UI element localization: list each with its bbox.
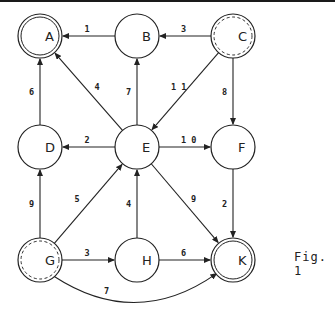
edge-d-a: 6 [29,59,40,125]
edge-weight-label: 3 [181,24,186,34]
node-k[interactable]: K [211,238,255,282]
edge-weight-label: 9 [29,199,34,209]
edge-weight-label: 1 1 [171,82,186,92]
edge-weight-label: 4 [126,199,131,209]
node-e[interactable]: E [115,125,159,169]
edge-weight-label: 8 [222,87,227,97]
edge-g-h: 3 [62,248,114,260]
edge-h-e: 4 [126,170,137,238]
nodes-layer: ABCDEFGHK [18,14,255,282]
node-label: H [142,253,152,268]
node-label: C [238,29,247,44]
node-label: E [142,140,150,155]
edge-weight-label: 2 [222,199,227,209]
node-b[interactable]: B [115,14,159,58]
edge-weight-label: 5 [75,194,80,204]
node-label: D [45,140,55,155]
edge-weight-label: 7 [104,286,109,296]
edge-weight-label: 1 0 [181,135,196,145]
edge-e-f: 1 0 [159,135,210,147]
edge-f-k: 2 [222,169,233,237]
node-label: A [45,29,54,44]
node-g[interactable]: G [18,238,62,282]
edge-c-f: 8 [222,58,233,124]
edge-c-b: 3 [160,24,211,36]
edge-weight-label: 9 [191,194,196,204]
node-f[interactable]: F [211,125,255,169]
node-d[interactable]: D [18,125,62,169]
edge-c-e: 1 1 [152,53,219,130]
figure-caption: Fig. 1 [294,250,335,278]
edge-weight-label: 7 [126,87,131,97]
node-label: K [238,253,247,268]
node-c[interactable]: C [211,14,255,58]
edge-weight-label: 1 [85,24,90,34]
edge-e-b: 7 [126,59,137,125]
edge-g-e: 5 [54,164,122,243]
node-label: B [142,29,151,44]
node-label: G [45,253,55,268]
edge-weight-label: 2 [85,135,90,145]
edge-g-d: 9 [29,170,40,238]
graph-diagram: 131 1864721 092953467 ABCDEFGHK [0,0,335,309]
edge-e-k: 9 [151,164,218,243]
edge-weight-label: 6 [29,87,34,97]
edge-weight-label: 4 [95,82,100,92]
edge-weight-label: 6 [181,248,186,258]
edge-e-d: 2 [63,135,115,147]
node-a[interactable]: A [18,14,62,58]
node-label: F [238,140,245,155]
edge-weight-label: 3 [85,248,90,258]
edge-e-a: 4 [55,53,122,130]
node-h[interactable]: H [115,238,159,282]
edge-b-a: 1 [63,24,115,36]
edge-h-k: 6 [159,248,210,260]
